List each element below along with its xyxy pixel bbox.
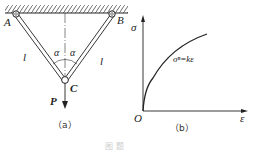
caption-a: （a） xyxy=(53,118,77,131)
label-alpha-right: α xyxy=(70,48,75,58)
epsilon-axis xyxy=(143,109,248,113)
label-l-right: l xyxy=(100,56,103,67)
label-epsilon: ε xyxy=(240,113,244,124)
label-origin: O xyxy=(134,113,142,124)
diagram-canvas xyxy=(0,0,255,152)
label-sigma: σ xyxy=(131,22,136,33)
label-C: C xyxy=(70,83,77,94)
label-A: A xyxy=(4,17,11,28)
label-alpha-left: α xyxy=(54,48,59,58)
caption-b: （b） xyxy=(170,121,194,134)
label-curve-equation: σⁿ=kε xyxy=(173,55,194,64)
label-P: P xyxy=(50,96,57,107)
label-l-left: l xyxy=(23,52,26,63)
load-arrow-P xyxy=(62,83,68,109)
footer-caption: 图 题 xyxy=(105,140,124,151)
stress-strain-curve xyxy=(143,34,207,111)
label-B: B xyxy=(117,15,124,26)
pin-C xyxy=(62,77,69,84)
